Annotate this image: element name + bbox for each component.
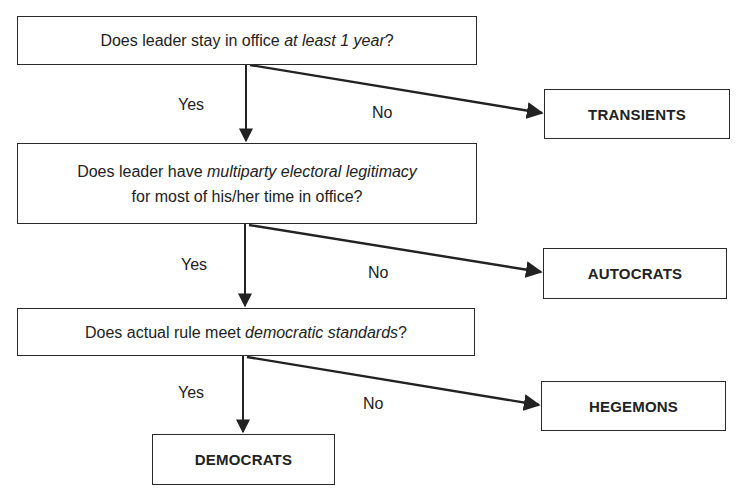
outcome-autocrats-label: AUTOCRATS xyxy=(588,265,683,282)
question-1-text: Does leader stay in office at least 1 ye… xyxy=(100,28,393,53)
question-3-text: Does actual rule meet democratic standar… xyxy=(85,320,407,345)
question-2-line-1: Does leader have multiparty electoral le… xyxy=(77,159,417,184)
outcome-hegemons-label: HEGEMONS xyxy=(589,398,678,415)
outcome-autocrats-box: AUTOCRATS xyxy=(543,248,727,299)
question-1-box: Does leader stay in office at least 1 ye… xyxy=(17,16,477,65)
edge-label-no-2: No xyxy=(368,264,388,282)
edge-label-yes-3: Yes xyxy=(178,384,204,402)
edge-label-no-3: No xyxy=(363,395,383,413)
outcome-democrats-box: DEMOCRATS xyxy=(152,434,335,485)
question-2-line-2: for most of his/her time in office? xyxy=(132,184,363,209)
outcome-democrats-label: DEMOCRATS xyxy=(195,451,292,468)
edge-label-yes-1: Yes xyxy=(178,96,204,114)
edge-label-no-1: No xyxy=(372,104,392,122)
outcome-transients-box: TRANSIENTS xyxy=(544,89,730,139)
edge-label-yes-2: Yes xyxy=(181,256,207,274)
question-2-box: Does leader have multiparty electoral le… xyxy=(17,143,477,224)
question-3-box: Does actual rule meet democratic standar… xyxy=(17,308,475,356)
outcome-transients-label: TRANSIENTS xyxy=(588,106,686,123)
outcome-hegemons-box: HEGEMONS xyxy=(541,381,726,431)
